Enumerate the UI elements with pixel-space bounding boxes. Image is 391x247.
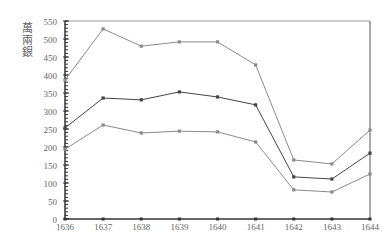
series-middle — [63, 90, 371, 180]
x-tick-label: 1636 — [56, 222, 75, 232]
data-point-marker — [292, 188, 295, 191]
data-point-marker — [102, 96, 105, 99]
y-tick-label: 400 — [44, 71, 58, 81]
plot-frame — [65, 21, 370, 219]
y-tick-label: 250 — [44, 125, 58, 135]
svg-text:兩: 兩 — [22, 34, 33, 46]
data-point-marker — [63, 78, 66, 81]
x-tick-label: 1638 — [132, 222, 151, 232]
data-point-marker — [330, 190, 333, 193]
x-tick-label: 1641 — [247, 222, 265, 232]
y-tick-label: 150 — [44, 161, 58, 171]
y-tick-label: 50 — [48, 197, 58, 207]
data-point-marker — [216, 40, 219, 43]
data-point-marker — [178, 40, 181, 43]
data-point-marker — [178, 90, 181, 93]
line-chart: 萬兩銀 050100150200250300350400450500550 16… — [0, 0, 391, 247]
data-point-marker — [330, 162, 333, 165]
data-point-marker — [368, 152, 371, 155]
y-tick-label: 550 — [44, 17, 58, 27]
y-tick-label: 350 — [44, 89, 58, 99]
data-point-marker — [368, 128, 371, 131]
data-point-marker — [140, 131, 143, 134]
x-tick-label: 1643 — [323, 222, 342, 232]
data-point-marker — [63, 148, 66, 151]
data-point-marker — [368, 172, 371, 175]
y-tick-label: 450 — [44, 53, 58, 63]
y-tick-label: 300 — [44, 107, 58, 117]
data-point-marker — [216, 130, 219, 133]
x-tick-label: 1637 — [94, 222, 113, 232]
svg-text:銀: 銀 — [22, 45, 33, 58]
y-tick-label: 200 — [44, 143, 58, 153]
y-tick-label: 500 — [44, 35, 58, 45]
data-series — [63, 27, 371, 193]
y-tick-label: 100 — [44, 179, 58, 189]
data-point-marker — [254, 140, 257, 143]
data-point-marker — [292, 158, 295, 161]
x-axis: 163616371638163916401641164216431644 — [56, 218, 380, 233]
y-axis: 050100150200250300350400450500550 — [44, 17, 70, 225]
x-tick-label: 1644 — [361, 222, 380, 232]
data-point-marker — [140, 98, 143, 101]
data-point-marker — [178, 130, 181, 133]
series-lower — [63, 123, 371, 193]
data-point-marker — [330, 177, 333, 180]
data-point-marker — [102, 27, 105, 30]
data-point-marker — [292, 175, 295, 178]
data-point-marker — [140, 45, 143, 48]
x-tick-label: 1642 — [285, 222, 303, 232]
data-point-marker — [254, 63, 257, 66]
svg-text:萬: 萬 — [22, 22, 33, 34]
data-point-marker — [102, 123, 105, 126]
y-axis-label: 萬兩銀 — [22, 22, 33, 58]
data-point-marker — [63, 126, 66, 129]
data-point-marker — [254, 103, 257, 106]
x-tick-label: 1640 — [209, 222, 228, 232]
x-tick-label: 1639 — [170, 222, 189, 232]
data-point-marker — [216, 95, 219, 98]
